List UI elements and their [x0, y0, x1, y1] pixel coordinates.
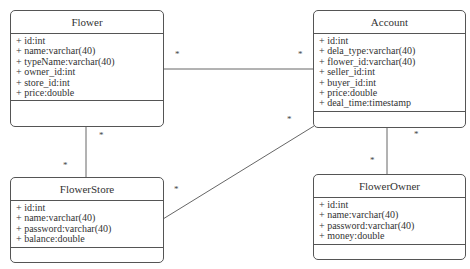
mult-account-owner-near-owner: * [370, 156, 375, 165]
class-name: FlowerOwner [314, 175, 465, 198]
class-name: FlowerStore [11, 178, 163, 201]
class-name: Account [314, 11, 465, 34]
mult-account-owner-near-account: * [414, 130, 419, 139]
assoc-flowerstore-account [163, 126, 314, 219]
operation-list [11, 248, 163, 262]
class-name: Flower [11, 11, 163, 34]
mult-flower-account-near-account: * [298, 50, 303, 59]
operation-list [314, 112, 465, 127]
attribute-list: + id:int + name:varchar(40) + password:v… [314, 198, 465, 245]
attribute-list: + id:int + dela_type:varchar(40) + flowe… [314, 34, 465, 112]
attribute-list: + id:int + name:varchar(40) + password:v… [11, 201, 163, 248]
class-flower[interactable]: Flower + id:int + name:varchar(40) + typ… [10, 10, 164, 127]
mult-store-account-near-store: * [174, 185, 179, 194]
mult-store-account-near-account: * [287, 115, 292, 124]
class-flowerstore[interactable]: FlowerStore + id:int + name:varchar(40) … [10, 177, 164, 263]
operation-list [11, 101, 163, 126]
attribute: + balance:double [16, 234, 158, 244]
attribute: + money:double [319, 231, 460, 241]
attribute: + deal_time:timestamp [319, 98, 460, 108]
operation-list [314, 245, 465, 259]
mult-flower-store-near-flower: * [99, 131, 104, 140]
mult-flower-store-near-store: * [63, 161, 68, 170]
mult-flower-account-near-flower: * [175, 50, 180, 59]
class-flowerowner[interactable]: FlowerOwner + id:int + name:varchar(40) … [313, 174, 466, 260]
class-account[interactable]: Account + id:int + dela_type:varchar(40)… [313, 10, 466, 128]
attribute: + price:double [16, 88, 158, 98]
attribute-list: + id:int + name:varchar(40) + typeName:v… [11, 34, 163, 101]
